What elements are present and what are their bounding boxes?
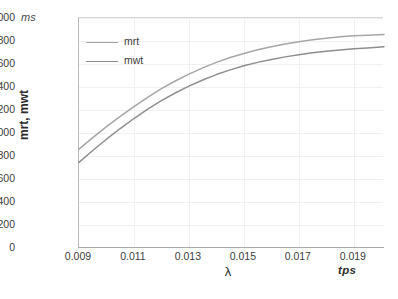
y-tick-label: 400 (0, 196, 15, 206)
y-tick-label: 1800 (0, 35, 15, 45)
x-tick-label: 0.015 (213, 251, 273, 262)
y-tick-label: 1600 (0, 58, 15, 68)
x-tick-label: 0.011 (103, 251, 163, 262)
legend-item-mrt[interactable]: mrt (86, 34, 176, 53)
y-tick-label: 1000 (0, 127, 15, 137)
y-tick-label: 1400 (0, 81, 15, 91)
y-tick-label: 0 (0, 242, 15, 252)
legend-color-swatch-mrt (86, 42, 118, 43)
x-tick-label: 0.017 (268, 251, 328, 262)
y-tick-label: 200 (0, 219, 15, 229)
x-tick-label: 0.013 (158, 251, 218, 262)
y-tick-label: 800 (0, 150, 15, 160)
x-axis-title: λ (198, 264, 258, 279)
legend-label-mwt: mwt (124, 54, 143, 67)
legend: mrt mwt (86, 34, 176, 72)
y-tick-label: 1200 (0, 104, 15, 114)
x-axis-line (78, 247, 384, 248)
legend-color-swatch-mwt (86, 61, 118, 62)
y-tick-label: 600 (0, 173, 15, 183)
y-axis-unit-label: ms (21, 11, 36, 23)
line-chart: ms mrt, mwt 2000180016001400120010008006… (0, 0, 398, 299)
legend-label-mrt: mrt (124, 35, 139, 48)
x-tick-label: 0.019 (323, 251, 383, 262)
y-tick-label: 2000 (0, 12, 15, 22)
x-axis-unit-label: tps (338, 264, 356, 276)
x-tick-label: 0.009 (48, 251, 108, 262)
y-axis-title: mrt, mwt (17, 70, 31, 160)
legend-item-mwt[interactable]: mwt (86, 53, 176, 72)
